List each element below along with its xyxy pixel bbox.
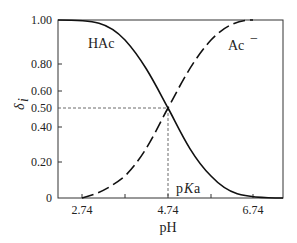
- svg-text:a: a: [194, 181, 201, 196]
- y-axis-ticks: [58, 64, 62, 162]
- y-tick-0.50: 0.50: [31, 101, 52, 115]
- x-tick-4.74: 4.74: [158, 203, 179, 217]
- y-tick-0.60: 0.60: [31, 84, 52, 98]
- x-axis-title: pH: [159, 220, 176, 235]
- y-tick-0.20: 0.20: [31, 155, 52, 169]
- svg-text:−: −: [250, 31, 258, 46]
- svg-text:i: i: [16, 98, 31, 102]
- y-tick-0.40: 0.40: [31, 120, 52, 134]
- svg-text:δ: δ: [12, 103, 27, 110]
- ac-label: Ac −: [228, 31, 258, 53]
- x-axis-ticks: [82, 194, 253, 198]
- y-tick-0.80: 0.80: [31, 57, 52, 71]
- svg-text:p: p: [176, 181, 183, 196]
- y-tick-1.00: 1.00: [31, 13, 52, 27]
- svg-text:Ac: Ac: [228, 38, 244, 53]
- pka-label: p K a: [176, 181, 201, 196]
- x-tick-6.74: 6.74: [243, 203, 264, 217]
- y-axis-title: δ i: [12, 98, 31, 110]
- chart: 1.00 0.80 0.60 0.50 0.40 0.20 0 2.74 4.7…: [0, 0, 297, 243]
- x-tick-2.74: 2.74: [72, 203, 93, 217]
- hac-label: HAc: [88, 36, 114, 51]
- svg-text:K: K: [183, 181, 194, 196]
- y-tick-0: 0: [46, 191, 52, 205]
